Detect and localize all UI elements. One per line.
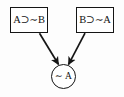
conclusion-label: ∼ A [55,71,72,81]
logic-inference-diagram: A⊃∼B B⊃∼A ∼ A [0,0,124,97]
conclusion-node: ∼ A [51,64,76,89]
premise-box-right: B⊃∼A [76,7,114,33]
premise-left-label: A⊃∼B [13,15,44,26]
arrow-right-to-conclusion [69,33,85,64]
premise-right-label: B⊃∼A [79,15,110,26]
premise-box-left: A⊃∼B [10,7,48,33]
arrow-left-to-conclusion [40,33,59,64]
